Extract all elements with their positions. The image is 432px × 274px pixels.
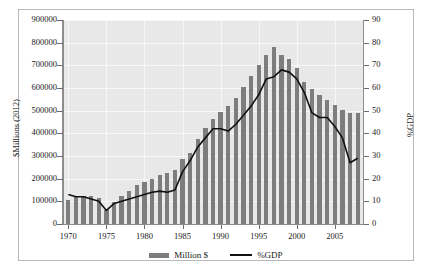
y-axis-left-line bbox=[62, 20, 64, 225]
y-axis-left-tick bbox=[57, 88, 63, 89]
y-axis-left-tick bbox=[57, 156, 63, 157]
y-axis-right-tick-label: 90 bbox=[372, 15, 381, 24]
legend-bar-swatch-icon bbox=[149, 253, 169, 258]
y-axis-right-tick-label: 60 bbox=[372, 83, 381, 92]
y-axis-right-tick-label: 10 bbox=[372, 196, 381, 205]
x-axis-tick-label: 1990 bbox=[212, 231, 229, 241]
legend-label: Million $ bbox=[174, 250, 208, 260]
y-axis-left-tick-label: 700000 bbox=[32, 60, 58, 69]
y-axis-left-tick-label: 500000 bbox=[32, 106, 58, 115]
y-axis-title-left: $Millions (2012) bbox=[10, 68, 21, 188]
x-axis-tick bbox=[183, 225, 184, 229]
y-axis-left-tick bbox=[57, 43, 63, 44]
legend-label: %GDP bbox=[257, 250, 283, 260]
x-axis-tick bbox=[335, 225, 336, 229]
y-axis-right-tick bbox=[364, 133, 369, 134]
y-axis-left-tick-label: 300000 bbox=[32, 151, 58, 160]
y-axis-title-left-label: $Millions (2012) bbox=[11, 99, 21, 157]
y-axis-left-tick bbox=[57, 111, 63, 112]
y-axis-right-tick-label: 40 bbox=[372, 128, 381, 137]
y-axis-left-tick-label: 600000 bbox=[32, 83, 58, 92]
y-axis-left-tick bbox=[57, 133, 63, 134]
y-axis-left-tick bbox=[57, 179, 63, 180]
x-axis-tick-label: 2000 bbox=[288, 231, 305, 241]
y-axis-right-tick bbox=[364, 65, 369, 66]
y-axis-left-tick-label: 900000 bbox=[32, 15, 58, 24]
y-axis-left-tick bbox=[57, 201, 63, 202]
legend-item[interactable]: %GDP bbox=[230, 250, 283, 260]
y-axis-right-tick bbox=[364, 179, 369, 180]
plot-area bbox=[63, 20, 363, 224]
x-axis-tick-label: 1975 bbox=[98, 231, 115, 241]
x-axis-tick bbox=[259, 225, 260, 229]
x-axis-tick bbox=[68, 225, 69, 229]
x-axis-tick bbox=[144, 225, 145, 229]
x-axis-tick-label: 1995 bbox=[250, 231, 267, 241]
x-axis-tick-label: 1985 bbox=[174, 231, 191, 241]
y-axis-left-tick-label: 100000 bbox=[32, 196, 58, 205]
y-axis-left-tick bbox=[57, 224, 63, 225]
x-axis-tick bbox=[106, 225, 107, 229]
x-axis-tick-label: 2005 bbox=[326, 231, 343, 241]
y-axis-title-right-label: %GDP bbox=[405, 113, 415, 137]
y-axis-title-right: %GDP bbox=[404, 95, 415, 155]
y-axis-right-tick bbox=[364, 224, 369, 225]
x-axis-tick bbox=[221, 225, 222, 229]
y-axis-left-tick-label: 800000 bbox=[32, 38, 58, 47]
y-axis-right-tick bbox=[364, 88, 369, 89]
y-axis-right-tick-label: 0 bbox=[372, 219, 376, 228]
x-axis-tick-label: 1970 bbox=[60, 231, 77, 241]
y-axis-right-tick-label: 80 bbox=[372, 38, 381, 47]
y-axis-right-tick-label: 20 bbox=[372, 174, 381, 183]
legend-line-swatch-icon bbox=[230, 254, 252, 256]
y-axis-right-tick-label: 30 bbox=[372, 151, 381, 160]
chart-figure: $Millions (2012) %GDP 010000020000030000… bbox=[0, 0, 432, 274]
x-axis-tick bbox=[297, 225, 298, 229]
y-axis-right-line bbox=[363, 20, 364, 225]
y-axis-right-tick bbox=[364, 43, 369, 44]
y-axis-right-tick bbox=[364, 20, 369, 21]
y-axis-left-tick-label: 400000 bbox=[32, 128, 58, 137]
y-axis-right-tick-label: 50 bbox=[372, 106, 381, 115]
chart-legend: Million $%GDP bbox=[0, 250, 432, 260]
y-axis-right-tick-label: 70 bbox=[372, 60, 381, 69]
y-axis-right-tick bbox=[364, 111, 369, 112]
y-axis-left-tick bbox=[57, 65, 63, 66]
line-series-pct-gdp bbox=[63, 20, 363, 224]
y-axis-left-tick-label: 200000 bbox=[32, 174, 58, 183]
legend-item[interactable]: Million $ bbox=[149, 250, 208, 260]
y-axis-left-tick-label: 0 bbox=[53, 219, 57, 228]
y-axis-right-tick bbox=[364, 201, 369, 202]
y-axis-left-tick bbox=[57, 20, 63, 21]
y-axis-right-tick bbox=[364, 156, 369, 157]
x-axis-tick-label: 1980 bbox=[136, 231, 153, 241]
